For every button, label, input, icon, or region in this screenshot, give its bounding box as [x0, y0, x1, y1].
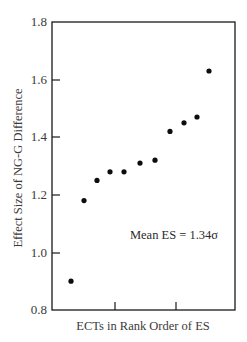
- data-point: [167, 129, 172, 134]
- y-tick-label: 1.8: [31, 14, 47, 29]
- y-tick-label: 1.0: [31, 245, 47, 260]
- x-axis: [115, 302, 176, 310]
- data-point: [194, 114, 199, 119]
- x-axis-label: ECTs in Rank Order of ES: [76, 319, 210, 333]
- data-point: [94, 178, 99, 183]
- data-point: [81, 198, 86, 203]
- y-tick-label: 1.2: [31, 187, 47, 202]
- y-axis: 0.8 1.0 1.2 1.4 1.6 1.8: [31, 14, 60, 317]
- y-tick-label: 1.6: [31, 72, 48, 87]
- plot-frame: [52, 22, 235, 310]
- data-point: [121, 169, 126, 174]
- mean-annotation: Mean ES = 1.34σ: [130, 228, 218, 242]
- data-point: [181, 120, 186, 125]
- data-point: [68, 279, 73, 284]
- y-tick-label: 0.8: [31, 302, 47, 317]
- y-tick-label: 1.4: [31, 129, 48, 144]
- y-axis-label: Effect Size of NG-G Difference: [11, 88, 25, 248]
- data-point: [152, 158, 157, 163]
- data-point: [206, 68, 211, 73]
- data-points: [68, 68, 211, 283]
- scatter-chart: 0.8 1.0 1.2 1.4 1.6 1.8 Mean ES = 1.34σ …: [0, 0, 247, 342]
- data-point: [137, 161, 142, 166]
- data-point: [107, 169, 112, 174]
